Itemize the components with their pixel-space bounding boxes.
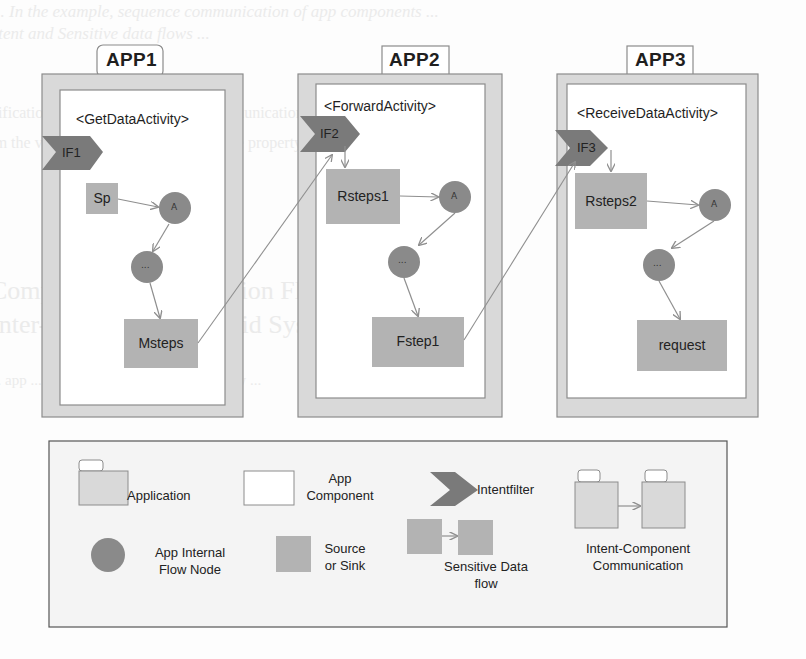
legend-source-sink-line1: Source xyxy=(317,540,373,557)
app1-container xyxy=(42,45,243,417)
source-sink-legend-icon xyxy=(276,536,311,572)
app2-title: APP2 xyxy=(389,49,440,71)
application-legend-icon xyxy=(79,460,103,471)
app3-intentfilter-label: IF3 xyxy=(577,140,596,155)
app2-intentfilter-label: IF2 xyxy=(320,126,339,141)
legend-intentfilter-label: Intentfilter xyxy=(477,481,534,498)
app2-internal-a-label: A xyxy=(451,191,457,201)
diagram-canvas: Fig. 1. In the example, sequence communi… xyxy=(0,0,806,659)
app3-internal-dots-label: ... xyxy=(653,258,662,268)
legend-internal-node-line2: Flow Node xyxy=(140,561,240,578)
app3-internal-a-label: A xyxy=(711,199,717,209)
internal-node-legend-icon xyxy=(91,538,125,572)
legend-app-component-line2: Component xyxy=(300,487,380,504)
legend-application-label: Application xyxy=(127,487,191,504)
app1-intentfilter-label: IF1 xyxy=(62,145,81,160)
legend-icc-line1: Intent-Component xyxy=(580,540,696,557)
legend-app-component-label: App Component xyxy=(300,470,380,504)
legend-icc-line2: Communication xyxy=(580,557,696,574)
app1-source-label: Sp xyxy=(86,190,118,206)
app2-activity-label: <ForwardActivity> xyxy=(324,98,436,114)
app2-sink-label: Fstep1 xyxy=(372,333,464,349)
app3-source-label: Rsteps2 xyxy=(575,193,647,209)
legend-icc-label: Intent-Component Communication xyxy=(580,540,696,574)
app1-sink-label: Msteps xyxy=(124,335,198,351)
legend-box xyxy=(49,441,727,627)
app1-title: APP1 xyxy=(106,49,157,71)
legend-internal-node-label: App Internal Flow Node xyxy=(140,544,240,578)
legend-sensitive-flow-label: Sensitive Data flow xyxy=(436,558,536,592)
legend-app-component-line1: App xyxy=(300,470,380,487)
app3-activity-label: <ReceiveDataActivity> xyxy=(577,105,718,121)
legend-internal-node-line1: App Internal xyxy=(140,544,240,561)
app2-source-label: Rsteps1 xyxy=(326,188,400,204)
app-component-legend-icon xyxy=(244,471,294,505)
legend-source-sink-label: Source or Sink xyxy=(317,540,373,574)
legend-source-sink-line2: or Sink xyxy=(317,557,373,574)
legend-sensitive-flow-line2: flow xyxy=(436,575,536,592)
app1-internal-dots-label: ... xyxy=(141,260,150,270)
app1-activity-label: <GetDataActivity> xyxy=(76,111,189,127)
app2-internal-dots-label: ... xyxy=(398,255,407,265)
icc-legend-icon xyxy=(578,470,600,482)
app3-container xyxy=(555,46,758,417)
legend-sensitive-flow-line1: Sensitive Data xyxy=(436,558,536,575)
app1-internal-a-label: A xyxy=(171,202,177,212)
app3-sink-label: request xyxy=(637,337,727,353)
app3-title: APP3 xyxy=(635,49,686,71)
sensitive-flow-legend-icon xyxy=(407,519,442,554)
